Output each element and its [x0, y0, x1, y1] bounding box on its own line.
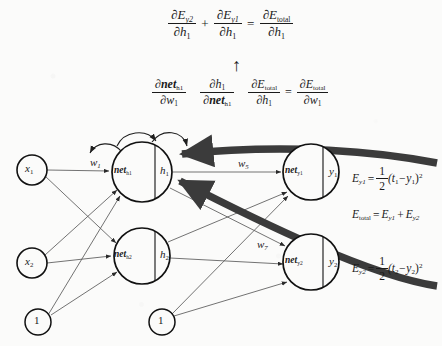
figure-canvas: ∂Ey2 ∂h1 + ∂Ey1 ∂h1 = ∂Etotal ∂h1 ↑ ∂net…: [0, 0, 442, 346]
frac-dEtotal-dh1: ∂Etotal ∂h1: [260, 8, 294, 39]
edge-b2-y2: [174, 282, 287, 316]
label-node-y2: y2: [329, 255, 337, 267]
frac-dEy2-dh1: ∂Ey2 ∂h1: [168, 8, 196, 39]
edge-x1-h2: [45, 176, 116, 243]
edge-b2-y1: [172, 196, 288, 314]
equals-operator-1: =: [245, 16, 256, 32]
edge-x2-h2: [47, 256, 111, 263]
edge-h2-y1: [168, 192, 287, 242]
label-node-y1: y1: [329, 165, 337, 177]
label-weight-w5: w5: [238, 157, 249, 169]
label-node-x2: x2: [25, 255, 33, 267]
label-node-neth2: neth2: [114, 249, 132, 259]
equation-error-y1: Ey1=12(t1−y1)2: [352, 165, 422, 193]
label-node-h2: h2: [160, 248, 169, 260]
equation-error-y2: Ey2=12(t2−y2)2: [352, 255, 422, 283]
plus-operator-1: +: [199, 16, 210, 32]
frac-dEy1-dh1: ∂Ey1 ∂h1: [214, 8, 242, 39]
label-weight-w7: w7: [257, 238, 268, 250]
input-to-hidden-edges: [45, 170, 117, 263]
frac-one-half-y2: 12: [376, 255, 388, 283]
frac-dEtotal-dw1: ∂Etotal ∂w1: [297, 78, 329, 107]
label-node-nety2: nety2: [285, 255, 303, 265]
edge-b1-h1: [48, 196, 120, 315]
equals-operator-2: =: [283, 85, 294, 100]
label-node-bias-2: 1: [158, 314, 164, 326]
edge-x2-h1: [45, 190, 117, 255]
frac-one-half-y1: 12: [376, 165, 388, 193]
edge-x1-h1: [47, 170, 109, 171]
up-arrow-glyph: ↑: [232, 56, 241, 74]
frac-dneth1-dw1: ∂neth1 ∂w1: [152, 78, 186, 107]
label-node-nety1: nety1: [285, 165, 303, 175]
label-node-x1: x1: [25, 162, 33, 174]
equation-error-total: Etotal=Ey1+Ey2: [352, 208, 419, 221]
label-node-neth1: neth1: [114, 165, 132, 175]
label-node-bias-1: 1: [34, 314, 40, 326]
equation-chain-rule: ∂neth1 ∂w1 ∂h1 ∂neth1 ∂Etotal ∂h1 = ∂Eto…: [152, 78, 328, 107]
bias1-edges: [48, 196, 120, 315]
label-node-h1: h1: [160, 164, 169, 176]
frac-dEtotal-dh1-chain: ∂Etotal ∂h1: [248, 78, 280, 107]
curve-h1-to-out: [152, 133, 187, 146]
bias2-edges: [172, 196, 288, 316]
frac-dh1-dneth1: ∂h1 ∂neth1: [200, 78, 234, 107]
equation-total-gradient: ∂Ey2 ∂h1 + ∂Ey1 ∂h1 = ∂Etotal ∂h1: [168, 8, 293, 39]
label-weight-w1: w1: [90, 156, 101, 168]
